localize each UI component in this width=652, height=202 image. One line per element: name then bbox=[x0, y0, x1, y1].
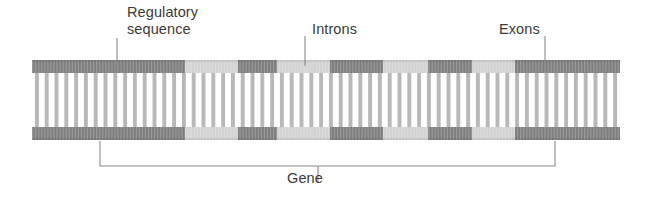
label-regulatory-sequence: Regulatory sequence bbox=[127, 4, 198, 38]
figure-canvas: Regulatory sequence Introns Exons Gene bbox=[0, 0, 652, 202]
label-gene: Gene bbox=[287, 170, 323, 187]
dna-rungs bbox=[35, 72, 617, 128]
gene-bracket bbox=[100, 141, 555, 182]
label-introns: Introns bbox=[312, 21, 357, 38]
label-exons: Exons bbox=[499, 21, 540, 38]
